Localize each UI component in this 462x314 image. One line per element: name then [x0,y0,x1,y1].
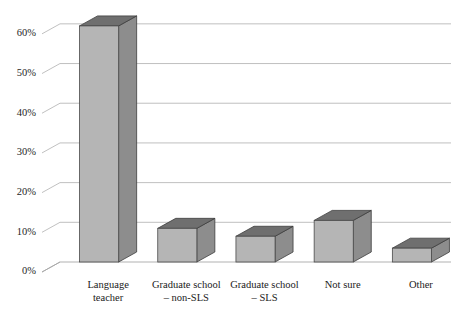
y-axis-tick-labels: 0%10%20%30%40%50%60% [17,27,37,276]
bar-1-front [80,26,119,262]
y-tick-50%: 50% [17,67,37,78]
x-tick-3-line-2: – SLS [251,292,278,303]
y-tick-30%: 30% [17,146,37,157]
gridline-0% [42,262,451,272]
x-tick-2-line-1: Graduate school [152,279,221,290]
x-tick-4-line-1: Not sure [325,279,361,290]
y-tick-20%: 20% [17,186,37,197]
bar-group [80,16,450,262]
y-tick-40%: 40% [17,107,37,118]
bar-3-front [236,236,275,262]
x-tick-1-line-2: teacher [93,292,124,303]
x-axis-tick-labels: LanguageteacherGraduate school– non-SLSG… [87,279,433,303]
bar-chart: 0%10%20%30%40%50%60% LanguageteacherGrad… [0,0,462,314]
x-tick-5-line-1: Other [409,279,433,290]
bar-4-front [314,220,353,262]
y-tick-60%: 60% [17,27,37,38]
x-tick-1-line-1: Language [87,279,129,290]
bar-1-side [119,16,137,262]
axis-floor-left [42,262,60,272]
bar-5-front [392,248,431,262]
x-tick-2-line-2: – non-SLS [163,292,209,303]
x-tick-3-line-1: Graduate school [230,279,299,290]
y-tick-0%: 0% [22,265,36,276]
y-tick-10%: 10% [17,226,37,237]
chart-container: 0%10%20%30%40%50%60% LanguageteacherGrad… [0,0,462,314]
bar-2-front [158,228,197,262]
